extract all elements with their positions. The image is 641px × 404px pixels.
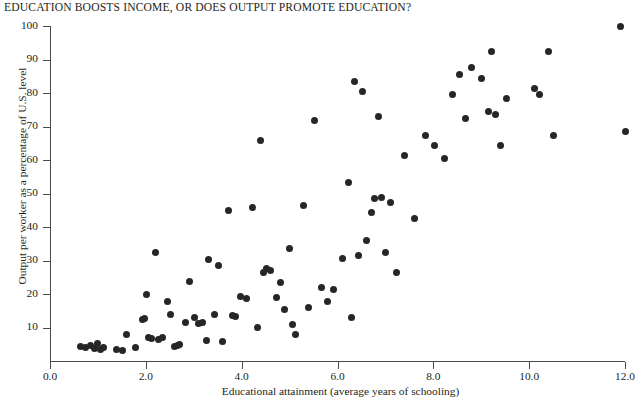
data-point (232, 313, 239, 320)
y-tick-mark (43, 60, 50, 61)
data-point (550, 132, 557, 139)
data-point (382, 249, 389, 256)
x-axis-title: Educational attainment (average years of… (0, 385, 641, 397)
data-point (368, 209, 375, 216)
data-point (277, 279, 284, 286)
data-point (225, 207, 232, 214)
x-tick-mark (338, 362, 339, 369)
data-point (359, 88, 366, 95)
x-tick-mark (50, 362, 51, 369)
data-point (123, 331, 130, 338)
x-tick-mark (529, 362, 530, 369)
x-tick-label: 6.0 (318, 370, 358, 382)
data-point (249, 204, 256, 211)
data-point (485, 108, 492, 115)
data-point (132, 344, 139, 351)
data-point (219, 338, 226, 345)
data-point (617, 23, 624, 30)
data-point (186, 278, 193, 285)
data-point (378, 194, 385, 201)
data-point (182, 319, 189, 326)
data-point (205, 256, 212, 263)
y-tick-mark (43, 160, 50, 161)
data-point (545, 48, 552, 55)
data-point (257, 137, 264, 144)
y-tick-mark (43, 93, 50, 94)
data-point (100, 344, 107, 351)
x-tick-label: 0.0 (30, 370, 70, 382)
data-point (345, 179, 352, 186)
data-point (531, 85, 538, 92)
data-point (431, 142, 438, 149)
data-point (622, 128, 629, 135)
y-tick-mark (43, 294, 50, 295)
data-point (478, 75, 485, 82)
data-point (273, 294, 280, 301)
data-point (488, 48, 495, 55)
y-tick-mark (43, 26, 50, 27)
data-point (159, 334, 166, 341)
y-tick-mark (43, 194, 50, 195)
y-tick-mark (43, 328, 50, 329)
data-point (339, 255, 346, 262)
y-axis-title: Output per worker as a percentage of U.S… (16, 26, 28, 326)
data-point (363, 237, 370, 244)
data-point (422, 132, 429, 139)
y-tick-mark (43, 261, 50, 262)
plot-area (50, 26, 625, 362)
data-point (387, 199, 394, 206)
data-point (289, 321, 296, 328)
figure-scatter-plot: EDUCATION BOOSTS INCOME, OR DOES OUTPUT … (0, 0, 641, 404)
x-tick-label: 10.0 (509, 370, 549, 382)
y-tick-mark (43, 127, 50, 128)
data-point (286, 245, 293, 252)
x-tick-mark (146, 362, 147, 369)
data-point (393, 269, 400, 276)
data-point (456, 71, 463, 78)
data-point (318, 284, 325, 291)
x-tick-label: 2.0 (126, 370, 166, 382)
x-tick-mark (625, 362, 626, 369)
data-point (176, 341, 183, 348)
data-point (401, 152, 408, 159)
data-point (203, 337, 210, 344)
x-tick-mark (242, 362, 243, 369)
data-point (300, 202, 307, 209)
data-point (497, 142, 504, 149)
data-point (503, 95, 510, 102)
x-tick-label: 8.0 (413, 370, 453, 382)
x-tick-label: 4.0 (222, 370, 262, 382)
chart-title: EDUCATION BOOSTS INCOME, OR DOES OUTPUT … (4, 1, 411, 14)
data-point (292, 331, 299, 338)
y-tick-mark (43, 227, 50, 228)
data-point (254, 324, 261, 331)
data-point (152, 249, 159, 256)
x-tick-label: 12.0 (605, 370, 641, 382)
x-tick-mark (433, 362, 434, 369)
